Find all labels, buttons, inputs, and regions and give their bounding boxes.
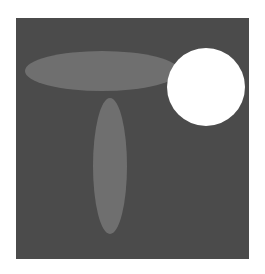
vertical-ellipse — [93, 98, 127, 234]
white-circle — [167, 48, 245, 126]
image-canvas — [0, 0, 265, 274]
horizontal-ellipse — [25, 51, 179, 91]
